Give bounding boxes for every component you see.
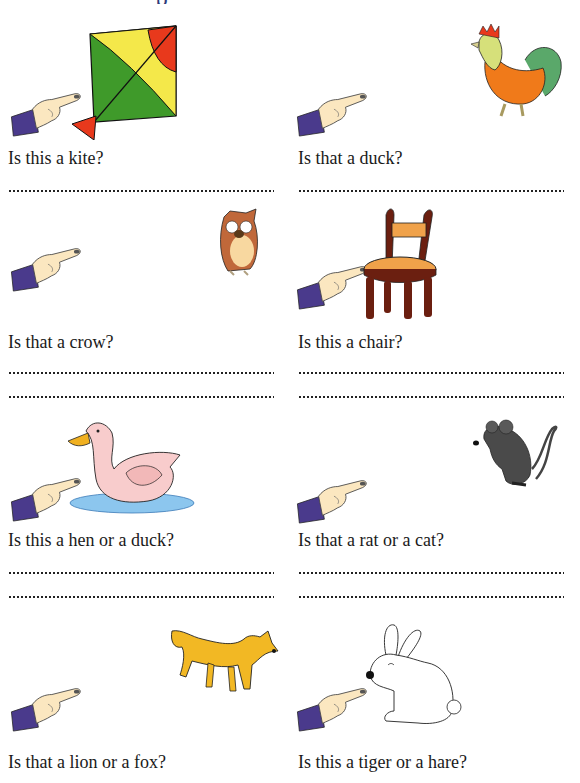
question-text: Is this a kite? xyxy=(8,148,103,169)
answer-line[interactable] xyxy=(298,572,564,574)
exercise-rat: Is that a rat or a cat? xyxy=(290,405,572,615)
pointing-hand-icon xyxy=(8,243,86,293)
owl-picture xyxy=(216,207,262,277)
pointing-hand-icon xyxy=(8,683,86,733)
answer-line[interactable] xyxy=(8,190,274,192)
chair-picture xyxy=(362,205,444,321)
question-text: Is that a duck? xyxy=(298,148,402,169)
answer-line[interactable] xyxy=(8,572,274,574)
answer-line[interactable] xyxy=(8,596,274,598)
answer-line[interactable] xyxy=(298,396,564,398)
exercise-duck: Is this a hen or a duck? xyxy=(0,405,282,615)
exercise-owl: Is that a crow? xyxy=(0,195,282,405)
rooster-picture xyxy=(465,22,565,117)
answer-line[interactable] xyxy=(298,372,564,374)
question-text: Is this a chair? xyxy=(298,332,402,353)
duck-picture xyxy=(66,419,200,515)
kite-picture xyxy=(70,22,182,140)
exercise-fox: Is that a lion or a fox? xyxy=(0,615,282,783)
question-text: Is this a tiger or a hare? xyxy=(298,752,467,773)
pointing-hand-icon xyxy=(294,261,372,311)
rat-picture xyxy=(472,419,558,491)
answer-line[interactable] xyxy=(8,372,274,374)
pointing-hand-icon xyxy=(294,683,372,733)
question-text: Is that a rat or a cat? xyxy=(298,530,444,551)
question-text: Is that a lion or a fox? xyxy=(8,752,166,773)
exercise-chair: Is this a chair? xyxy=(290,195,572,405)
answer-line[interactable] xyxy=(298,190,564,192)
question-text: Is that a crow? xyxy=(8,332,113,353)
fox-picture xyxy=(168,625,280,701)
answer-line[interactable] xyxy=(298,596,564,598)
exercise-rooster: Is that a duck? xyxy=(290,0,572,195)
exercise-hare: Is this a tiger or a hare? xyxy=(290,615,572,783)
exercise-kite: Is this a kite? xyxy=(0,0,282,195)
question-text: Is this a hen or a duck? xyxy=(8,530,174,551)
pointing-hand-icon xyxy=(294,88,372,138)
hare-picture xyxy=(364,621,464,727)
answer-line[interactable] xyxy=(8,396,274,398)
pointing-hand-icon xyxy=(294,475,372,525)
